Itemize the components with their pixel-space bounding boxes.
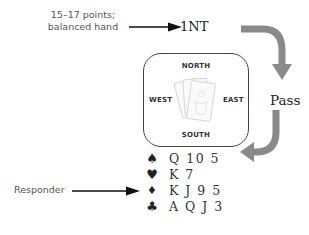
pointer-arrow-to-opening-bid bbox=[128, 20, 184, 34]
curved-arrow-to-hand bbox=[240, 108, 290, 164]
spade-icon: ♠ bbox=[145, 151, 159, 166]
opener-annotation: 15–17 points; balanced hand bbox=[38, 9, 128, 33]
pointer-arrow-to-hand bbox=[72, 184, 142, 198]
opener-annotation-line2: balanced hand bbox=[38, 21, 128, 33]
opener-annotation-line1: 15–17 points; bbox=[38, 9, 128, 21]
south-label: SOUTH bbox=[144, 131, 248, 139]
hand-row-diamonds: ♦ K J 9 5 bbox=[145, 182, 224, 198]
diamond-cards: K J 9 5 bbox=[169, 183, 222, 198]
hand-row-spades: ♠ Q 10 5 bbox=[145, 150, 224, 166]
diamond-icon: ♦ bbox=[145, 184, 159, 197]
west-label: WEST bbox=[149, 96, 172, 104]
heart-cards: K 7 bbox=[169, 167, 195, 182]
north-label: NORTH bbox=[144, 62, 248, 70]
east-label: EAST bbox=[223, 96, 244, 104]
club-cards: A Q J 3 bbox=[169, 199, 224, 214]
playing-cards-icon bbox=[172, 74, 220, 130]
responder-hand: ♠ Q 10 5 ♥ K 7 ♦ K J 9 5 ♣ A Q J 3 bbox=[145, 150, 224, 214]
next-bid: Pass bbox=[270, 92, 300, 108]
heart-icon: ♥ bbox=[145, 167, 159, 182]
responder-annotation: Responder bbox=[14, 184, 65, 196]
hand-row-clubs: ♣ A Q J 3 bbox=[145, 198, 224, 214]
spade-cards: Q 10 5 bbox=[169, 151, 220, 166]
hand-row-hearts: ♥ K 7 bbox=[145, 166, 224, 182]
club-icon: ♣ bbox=[145, 199, 159, 214]
bridge-table: NORTH SOUTH WEST EAST bbox=[143, 53, 249, 147]
opening-bid: 1NT bbox=[180, 19, 208, 34]
